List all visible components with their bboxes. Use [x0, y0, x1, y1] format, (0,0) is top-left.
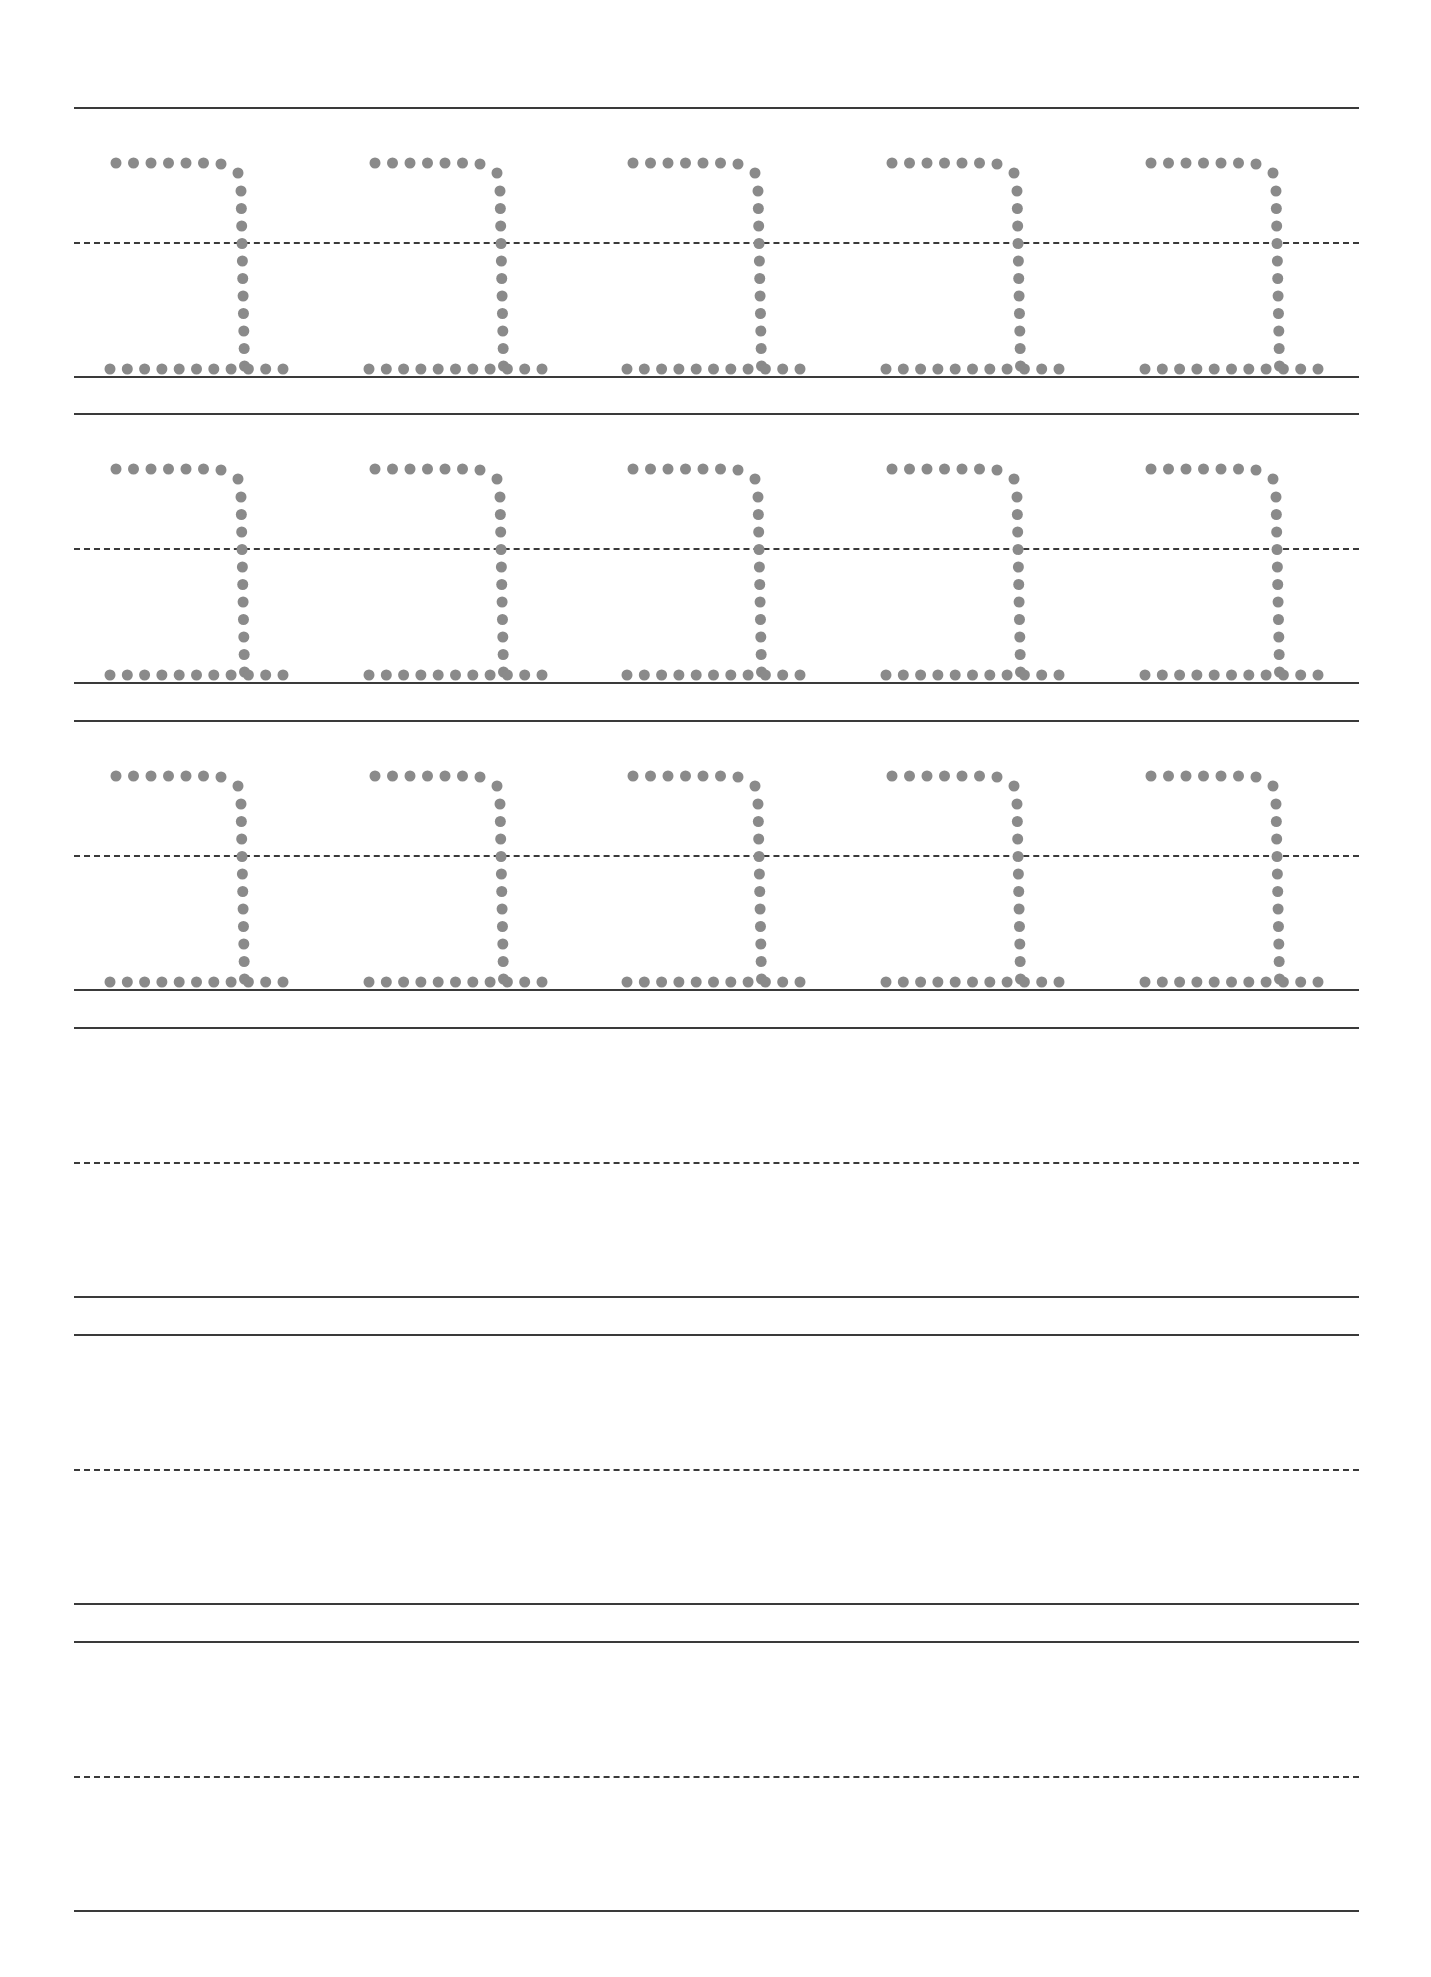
dotted-glyph-icon [116, 413, 316, 683]
dotted-glyph-icon [633, 413, 833, 683]
dotted-glyph-icon [1151, 107, 1351, 377]
dotted-glyph-icon [375, 720, 575, 990]
tracing-letter[interactable] [1151, 720, 1351, 990]
tracing-letter[interactable] [375, 413, 575, 683]
baseline [74, 1910, 1359, 1912]
tracing-letter[interactable] [375, 107, 575, 377]
dotted-glyph-icon [375, 413, 575, 683]
tracing-letter[interactable] [116, 720, 316, 990]
midline-dashed [74, 1469, 1359, 1471]
tracing-letter[interactable] [892, 720, 1092, 990]
dotted-glyph-icon [892, 413, 1092, 683]
tracing-letter[interactable] [633, 107, 833, 377]
dotted-glyph-icon [633, 720, 833, 990]
tracing-row-3 [74, 720, 1359, 990]
tracing-letter[interactable] [116, 107, 316, 377]
tracing-letter[interactable] [1151, 413, 1351, 683]
tracing-row-1 [74, 107, 1359, 377]
tracing-letter[interactable] [1151, 107, 1351, 377]
tracing-letter[interactable] [892, 107, 1092, 377]
blank-row-5[interactable] [74, 1334, 1359, 1604]
top-line [74, 1027, 1359, 1029]
baseline [74, 1296, 1359, 1298]
blank-row-6[interactable] [74, 1641, 1359, 1911]
dotted-glyph-icon [116, 720, 316, 990]
baseline [74, 1603, 1359, 1605]
dotted-glyph-icon [1151, 720, 1351, 990]
dotted-glyph-icon [1151, 413, 1351, 683]
dotted-glyph-icon [892, 720, 1092, 990]
dotted-glyph-icon [116, 107, 316, 377]
tracing-letter[interactable] [633, 413, 833, 683]
dotted-glyph-icon [633, 107, 833, 377]
dotted-glyph-icon [375, 107, 575, 377]
midline-dashed [74, 1162, 1359, 1164]
tracing-letter[interactable] [892, 413, 1092, 683]
tracing-row-2 [74, 413, 1359, 683]
tracing-letter[interactable] [633, 720, 833, 990]
top-line [74, 1334, 1359, 1336]
blank-row-4[interactable] [74, 1027, 1359, 1297]
tracing-letter[interactable] [116, 413, 316, 683]
midline-dashed [74, 1776, 1359, 1778]
top-line [74, 1641, 1359, 1643]
handwriting-worksheet [0, 0, 1431, 1977]
tracing-letter[interactable] [375, 720, 575, 990]
dotted-glyph-icon [892, 107, 1092, 377]
